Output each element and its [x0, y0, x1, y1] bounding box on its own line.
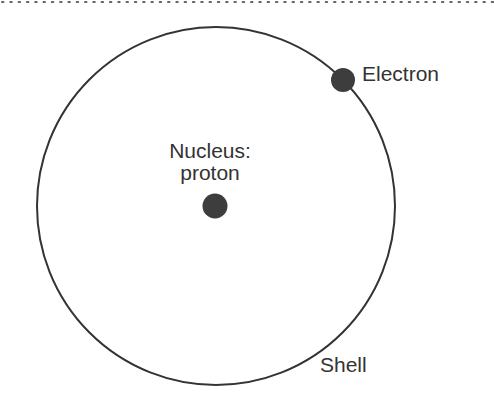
nucleus-label: Nucleus: — [169, 139, 251, 162]
shell-label: Shell — [320, 353, 367, 376]
proton-label: proton — [180, 161, 240, 184]
electron-label: Electron — [362, 62, 439, 85]
electron — [331, 68, 355, 92]
nucleus-proton — [203, 194, 228, 219]
atom-diagram: Electron Nucleus: proton Shell — [0, 0, 494, 411]
